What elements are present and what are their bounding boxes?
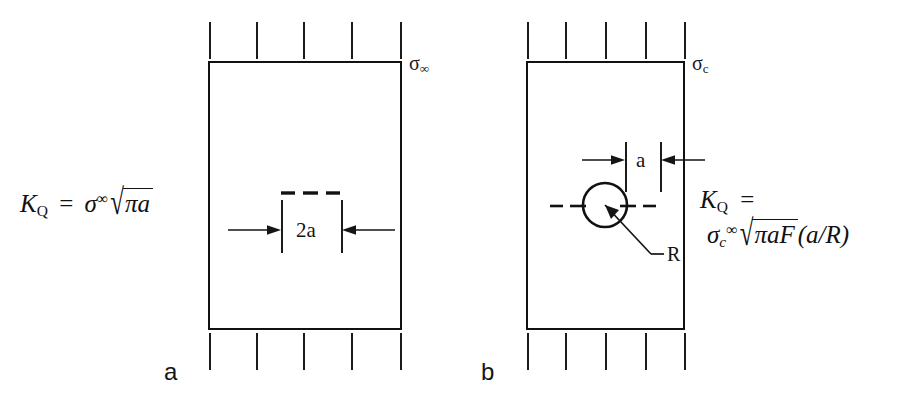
panel-a-letter: a [164, 358, 177, 386]
panel-a-stress-label: σ∞ [409, 52, 429, 77]
panel-a-dimension-arrow-right [340, 222, 395, 238]
panel-a-dimension-label: 2a [296, 218, 316, 243]
panel-a-bottom-tick [400, 333, 402, 370]
panel-b-stress-label: σc [692, 52, 709, 77]
panel-b-formula-K-subscript: Q [717, 198, 728, 215]
panel-a-top-tick [303, 22, 305, 59]
panel-a-top-tick [400, 22, 402, 59]
panel-a-bottom-tick [351, 333, 353, 370]
panel-a-formula-equals: = [54, 190, 78, 217]
panel-a-formula: KQ = σ∞√πa [20, 188, 153, 220]
panel-b-top-tick [645, 22, 647, 59]
panel-b-bottom-tick [527, 333, 529, 370]
panel-b-top-tick [527, 22, 529, 59]
panel-a-top-tick [351, 22, 353, 59]
panel-b-letter: b [481, 358, 494, 386]
panel-b-hole [578, 178, 698, 298]
panel-a-bottom-tick [256, 333, 258, 370]
panel-b-bottom-tick [684, 333, 686, 370]
panel-a-top-tick [209, 22, 211, 59]
panel-b-formula-K: K [700, 186, 717, 213]
panel-b-top-tick [565, 22, 567, 59]
panel-a-formula-sigma: σ [85, 190, 97, 217]
panel-b-bottom-tick [605, 333, 607, 370]
panel-a-sigma-subscript: ∞ [420, 61, 429, 76]
panel-b-bottom-tick [565, 333, 567, 370]
panel-b-formula-sigma: σ [707, 221, 719, 248]
panel-b-formula-radicand: πaF [752, 219, 797, 250]
panel-a-formula-K: K [20, 190, 37, 217]
panel-b-top-tick [605, 22, 607, 59]
panel-b-top-tick [684, 22, 686, 59]
panel-a-formula-sigma-superscript: ∞ [97, 190, 108, 207]
panel-a-sigma-symbol: σ [409, 52, 420, 74]
panel-a-crack [276, 186, 348, 200]
panel-a-bottom-tick [209, 333, 211, 370]
radical-icon: √ [740, 213, 754, 255]
panel-b-dimension-arrow-right [659, 152, 705, 168]
radical-icon: √ [110, 182, 124, 224]
panel-b-formula-equals: = [734, 186, 754, 213]
panel-b-sigma-subscript: c [703, 61, 709, 76]
panel-b-dimension-label: a [636, 148, 645, 173]
panel-b-bottom-tick [645, 333, 647, 370]
panel-b-formula-line1: KQ = [700, 186, 754, 216]
panel-b-formula-line2: σc∞√πaF(a/R) [707, 219, 849, 251]
panel-b-formula-sqrt: √πaF [738, 219, 798, 250]
panel-b-sigma-symbol: σ [692, 52, 703, 74]
panel-a-dimension-arrow-left [228, 222, 283, 238]
panel-a-formula-sqrt: √πa [108, 188, 153, 219]
panel-a-bottom-tick [303, 333, 305, 370]
panel-b-formula-sigma-superscript: ∞ [726, 221, 737, 238]
panel-b-dimension-arrow-left [582, 152, 627, 168]
fracture-mechanics-figure: KQ = σ∞√πa σ∞ 2a a [0, 0, 909, 410]
panel-a-formula-K-subscript: Q [37, 202, 48, 219]
panel-b-radius-label: R [667, 243, 680, 266]
panel-b-formula-argument: (a/R) [798, 221, 849, 248]
panel-a-top-tick [256, 22, 258, 59]
panel-a-formula-radicand: πa [123, 188, 153, 219]
